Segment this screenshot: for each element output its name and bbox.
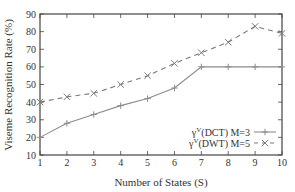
y-tick-label: 40 [26, 97, 36, 108]
legend-item-2: γV(DWT) M=5 [188, 137, 276, 150]
x-tick-label: 9 [253, 157, 258, 168]
y-axis-label: Viseme Recognition Rate (%) [2, 19, 15, 151]
y-tick-label: 20 [26, 132, 36, 143]
x-axis-label: Number of States (S) [114, 176, 208, 189]
x-tick-label: 4 [118, 157, 123, 168]
y-tick-label: 30 [26, 114, 36, 125]
line-chart: 12345678910102030405060708090 γV(DCT) M=… [0, 0, 295, 192]
x-tick-label: 2 [64, 157, 69, 168]
y-tick-label: 50 [26, 79, 36, 90]
chart-canvas: 12345678910102030405060708090 γV(DCT) M=… [0, 0, 295, 192]
y-tick-label: 90 [26, 9, 36, 20]
y-tick-label: 60 [26, 61, 36, 72]
x-tick-label: 8 [226, 157, 231, 168]
x-tick-label: 1 [38, 157, 43, 168]
series-layer [37, 23, 285, 140]
legend: γV(DCT) M=3γV(DWT) M=5 [188, 126, 276, 150]
series-line [40, 26, 282, 102]
x-tick-label: 3 [91, 157, 96, 168]
x-tick-label: 5 [145, 157, 150, 168]
x-tick-label: 6 [172, 157, 177, 168]
x-tick-label: 7 [199, 157, 204, 168]
y-tick-label: 10 [26, 150, 36, 161]
y-tick-label: 70 [26, 44, 36, 55]
legend-label: γV(DWT) M=5 [188, 137, 250, 150]
y-tick-label: 80 [26, 26, 36, 37]
x-tick-label: 10 [277, 157, 287, 168]
